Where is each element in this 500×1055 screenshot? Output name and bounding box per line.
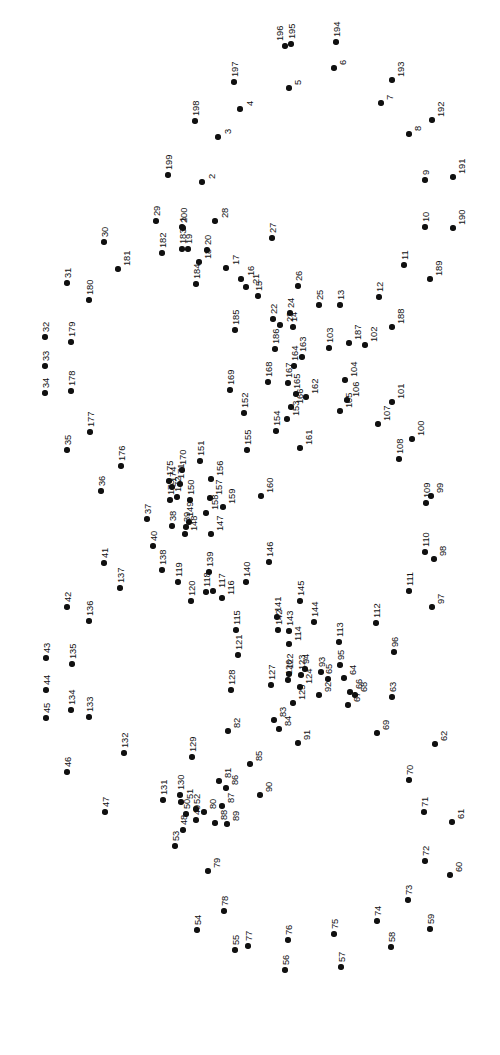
dot-label-33: 33 bbox=[41, 351, 50, 361]
dot-marker-5 bbox=[286, 85, 291, 90]
dot-marker-110 bbox=[422, 549, 427, 554]
dot-marker-146 bbox=[266, 559, 271, 564]
dot-label-86: 86 bbox=[230, 775, 239, 785]
dot-marker-57 bbox=[338, 964, 343, 969]
dot-marker-4 bbox=[237, 106, 242, 111]
dot-marker-96 bbox=[391, 649, 396, 654]
dot-label-155: 155 bbox=[243, 430, 252, 445]
dot-label-167: 167 bbox=[284, 363, 293, 378]
dot-marker-53 bbox=[172, 843, 177, 848]
dot-marker-78 bbox=[221, 908, 226, 913]
dot-marker-91 bbox=[295, 740, 300, 745]
dot-label-25: 25 bbox=[315, 290, 324, 300]
dot-label-82: 82 bbox=[232, 718, 241, 728]
dot-marker-73 bbox=[405, 897, 410, 902]
dot-marker-196 bbox=[282, 43, 287, 48]
dot-marker-167 bbox=[285, 380, 290, 385]
dot-label-132: 132 bbox=[120, 733, 129, 748]
dot-label-12: 12 bbox=[375, 282, 384, 292]
dot-marker-186 bbox=[272, 346, 277, 351]
dot-label-8: 8 bbox=[413, 126, 422, 131]
dot-label-72: 72 bbox=[421, 846, 430, 856]
dot-marker-149 bbox=[186, 519, 191, 524]
dot-marker-16 bbox=[238, 276, 243, 281]
dot-marker-70 bbox=[406, 777, 411, 782]
dot-label-128: 128 bbox=[227, 670, 236, 685]
dot-label-145: 145 bbox=[296, 581, 305, 596]
dot-label-101: 101 bbox=[396, 384, 405, 399]
dot-marker-40 bbox=[150, 543, 155, 548]
dot-label-185: 185 bbox=[231, 310, 240, 325]
dot-label-125: 125 bbox=[297, 685, 306, 700]
dot-marker-34 bbox=[42, 390, 47, 395]
dot-label-178: 178 bbox=[67, 371, 76, 386]
dot-marker-89 bbox=[224, 821, 229, 826]
dot-marker-101 bbox=[389, 399, 394, 404]
dot-label-100: 100 bbox=[416, 421, 425, 436]
dot-marker-97 bbox=[429, 604, 434, 609]
dot-marker-103 bbox=[326, 345, 331, 350]
dot-label-166: 166 bbox=[295, 389, 304, 404]
dot-marker-8 bbox=[406, 131, 411, 136]
dot-marker-6 bbox=[331, 65, 336, 70]
dot-marker-139 bbox=[206, 569, 211, 574]
dot-label-144: 144 bbox=[310, 602, 319, 617]
dot-marker-63 bbox=[389, 694, 394, 699]
dot-label-5: 5 bbox=[293, 80, 302, 85]
dot-marker-126 bbox=[285, 677, 290, 682]
dot-label-53: 53 bbox=[171, 831, 180, 841]
dot-label-73: 73 bbox=[404, 885, 413, 895]
dot-label-95: 95 bbox=[336, 650, 345, 660]
dot-label-59: 59 bbox=[426, 914, 435, 924]
dot-marker-158 bbox=[203, 510, 208, 515]
dot-marker-140 bbox=[243, 579, 248, 584]
dot-marker-187 bbox=[346, 340, 351, 345]
dot-marker-190 bbox=[450, 225, 455, 230]
dot-label-159: 159 bbox=[227, 489, 236, 504]
dot-marker-10 bbox=[422, 224, 427, 229]
dot-marker-77 bbox=[245, 943, 250, 948]
dot-label-26: 26 bbox=[294, 271, 303, 281]
dot-marker-7 bbox=[378, 100, 383, 105]
dot-label-92: 92 bbox=[323, 682, 332, 692]
dot-label-97: 97 bbox=[436, 594, 445, 604]
dot-label-197: 197 bbox=[230, 62, 239, 77]
dot-marker-64 bbox=[341, 675, 346, 680]
dot-marker-32 bbox=[42, 334, 47, 339]
dot-label-194: 194 bbox=[332, 22, 341, 37]
dot-label-176: 176 bbox=[117, 446, 126, 461]
dot-label-70: 70 bbox=[405, 765, 414, 775]
dot-label-169: 169 bbox=[226, 370, 235, 385]
dot-marker-159 bbox=[220, 504, 225, 509]
dot-marker-195 bbox=[288, 41, 293, 46]
dot-marker-172 bbox=[174, 494, 179, 499]
dot-marker-13 bbox=[337, 302, 342, 307]
dot-marker-125 bbox=[290, 700, 295, 705]
dot-label-96: 96 bbox=[390, 637, 399, 647]
dot-marker-52 bbox=[193, 806, 198, 811]
dot-label-74: 74 bbox=[373, 906, 382, 916]
dot-label-3: 3 bbox=[223, 129, 232, 134]
dot-marker-41 bbox=[101, 560, 106, 565]
dot-label-17: 17 bbox=[231, 255, 240, 265]
dot-label-110: 110 bbox=[421, 532, 430, 547]
dot-label-103: 103 bbox=[325, 328, 334, 343]
dot-marker-109 bbox=[423, 500, 428, 505]
dot-label-76: 76 bbox=[284, 925, 293, 935]
dot-marker-166 bbox=[288, 404, 293, 409]
dot-marker-169 bbox=[227, 387, 232, 392]
dot-label-130: 130 bbox=[176, 775, 185, 790]
dot-label-147: 147 bbox=[215, 516, 224, 531]
dot-marker-92 bbox=[316, 692, 321, 697]
dot-marker-133 bbox=[86, 714, 91, 719]
dot-label-89: 89 bbox=[231, 811, 240, 821]
dot-label-4: 4 bbox=[245, 101, 254, 106]
dot-marker-113 bbox=[336, 639, 341, 644]
dot-label-196: 196 bbox=[275, 26, 284, 41]
dot-label-38: 38 bbox=[168, 511, 177, 521]
dot-marker-83 bbox=[271, 717, 276, 722]
dot-marker-75 bbox=[331, 931, 336, 936]
dot-label-88: 88 bbox=[219, 810, 228, 820]
dot-label-184: 184 bbox=[192, 264, 201, 279]
dot-label-175: 175 bbox=[165, 461, 174, 476]
